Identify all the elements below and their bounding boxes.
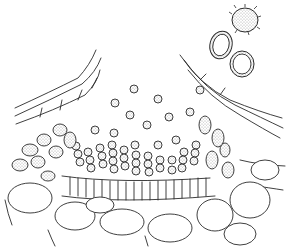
basal-cells (62, 176, 215, 200)
echinulate-spore (232, 8, 258, 32)
left-peridium (15, 50, 101, 124)
sorus-cross-section-drawing (0, 0, 291, 247)
illustration (0, 0, 291, 247)
enlarged-spores (207, 4, 261, 77)
